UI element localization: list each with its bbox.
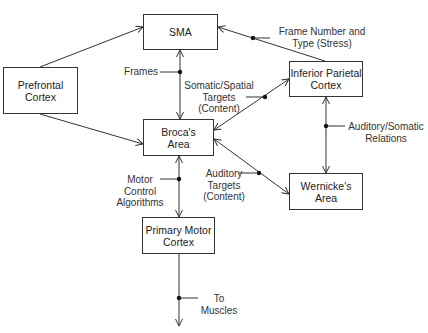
node-brocas-area: Broca's Area xyxy=(143,119,214,156)
label-frames: Frames xyxy=(110,66,158,78)
node-prefrontal-cortex: Prefrontal Cortex xyxy=(3,67,78,114)
edge-prefrontal-sma xyxy=(40,27,143,67)
node-primary-motor-cortex: Primary Motor Cortex xyxy=(142,217,215,254)
label-to-muscles: To Muscles xyxy=(197,293,241,316)
label-auditory-targets: Auditory Targets (Content) xyxy=(196,168,252,203)
node-inferior-parietal-cortex: Inferior Parietal Cortex xyxy=(289,61,363,97)
edge-prefrontal-broca xyxy=(40,114,143,144)
label-motor-control-algorithms: Motor Control Algorithms xyxy=(115,174,165,209)
label-frame-number-type: Frame Number and Type (Stress) xyxy=(272,26,372,49)
label-somatic-spatial-targets: Somatic/Spatial Targets (Content) xyxy=(183,80,255,115)
node-wernickes-area: Wernicke's Area xyxy=(289,173,363,210)
label-auditory-somatic-relations: Auditory/Somatic Relations xyxy=(344,121,428,144)
node-sma: SMA xyxy=(143,14,218,50)
speech-production-diagram: SMA Prefrontal Cortex Broca's Area Infer… xyxy=(0,0,428,333)
